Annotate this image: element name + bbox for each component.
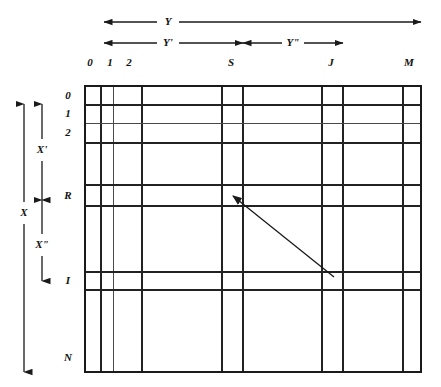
column-label-2: 2 — [125, 56, 132, 68]
grid-diagram-figure: YY'Y" XX'X" 012SJM 012RIN — [0, 0, 441, 387]
dimension-X: X — [19, 104, 28, 372]
column-label-0: 0 — [87, 56, 93, 68]
dimension-Xpp: X" — [34, 200, 48, 281]
grid-border — [85, 86, 421, 372]
dimension-Xp: X' — [36, 104, 47, 200]
dimension-Y: Y — [104, 15, 421, 27]
vertical-dimension-group: XX'X" — [19, 104, 48, 372]
column-label-1: 1 — [107, 56, 113, 68]
dimension-label-Ypp: Y" — [287, 36, 300, 48]
dimension-label-Yp: Y' — [163, 36, 173, 48]
row-label-I: I — [65, 274, 71, 286]
dimension-label-Xp: X' — [36, 143, 47, 155]
row-label-2: 2 — [64, 126, 71, 138]
grid-lines-group — [85, 86, 421, 372]
diagram-canvas: YY'Y" XX'X" 012SJM 012RIN — [0, 0, 441, 387]
column-label-J: J — [327, 56, 334, 68]
horizontal-dimension-group: YY'Y" — [104, 15, 421, 48]
flow-arrow-line — [233, 196, 334, 277]
dimension-Ypp: Y" — [243, 36, 343, 48]
row-label-0: 0 — [65, 89, 71, 101]
dimension-label-Xpp: X" — [34, 238, 48, 250]
column-label-M: M — [403, 56, 415, 68]
dimension-label-Y: Y — [165, 15, 173, 27]
row-label-R: R — [63, 189, 71, 201]
row-label-1: 1 — [65, 107, 71, 119]
dimension-label-X: X — [19, 206, 28, 218]
cell-reference-arrow — [233, 196, 334, 277]
dimension-Yp: Y' — [104, 36, 243, 48]
column-label-S: S — [228, 56, 234, 68]
column-label-group: 012SJM — [87, 56, 415, 68]
row-label-group: 012RIN — [63, 89, 73, 363]
row-label-N: N — [63, 351, 73, 363]
